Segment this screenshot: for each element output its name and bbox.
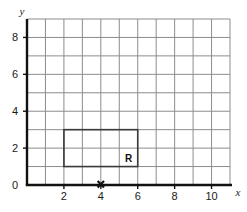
y-axis-label: y: [19, 5, 25, 17]
coordinate-plane-svg: 2 4 6 8 10 0 2 4 6 8 y x R: [0, 0, 247, 212]
coordinate-grid-figure: 2 4 6 8 10 0 2 4 6 8 y x R: [0, 0, 247, 212]
y-tick-label-8: 8: [12, 31, 18, 43]
y-tick-label-4: 4: [12, 105, 18, 117]
y-tick-label-2: 2: [12, 142, 18, 154]
x-tick-label-6: 6: [135, 190, 141, 202]
x-tick-label-8: 8: [172, 190, 178, 202]
y-tick-label-6: 6: [12, 68, 18, 80]
x-tick-label-2: 2: [61, 190, 67, 202]
x-tick-label-10: 10: [205, 190, 217, 202]
x-tick-label-4: 4: [98, 190, 104, 202]
x-axis-label: x: [235, 186, 241, 198]
region-label-r: R: [125, 153, 133, 164]
y-tick-label-0: 0: [12, 179, 18, 191]
